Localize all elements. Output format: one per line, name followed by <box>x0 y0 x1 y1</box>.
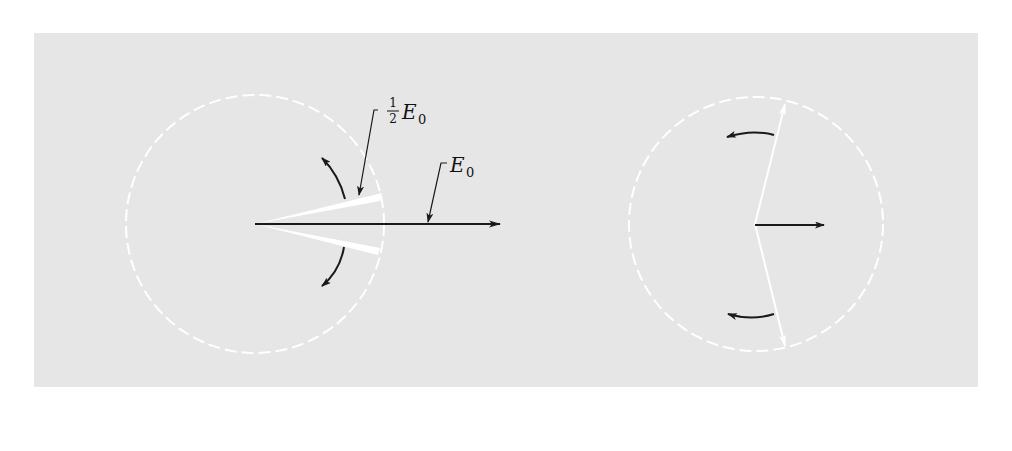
half-symbol: E <box>401 100 417 124</box>
left-lower-phasor <box>255 224 380 255</box>
left-rotation-arrow-down <box>322 247 344 286</box>
right-lower-phasor <box>755 224 785 346</box>
phasor-diagram: 1 2 E 0 E 0 <box>0 0 1012 451</box>
left-upper-phasor <box>255 193 382 224</box>
half-amplitude-label: 1 2 E 0 <box>387 96 426 127</box>
resultant-label: E 0 <box>449 153 474 180</box>
right-rotation-arrow-lower <box>728 314 774 318</box>
right-rotation-arrow-upper <box>727 132 774 137</box>
fraction-denominator: 2 <box>389 112 397 126</box>
resultant-symbol: E <box>449 153 465 177</box>
resultant-leader <box>428 163 447 222</box>
figure-page: 1 2 E 0 E 0 <box>0 0 1012 451</box>
right-upper-phasor <box>755 104 785 224</box>
half-subscript: 0 <box>418 112 426 127</box>
left-phasor-group: 1 2 E 0 E 0 <box>126 95 500 353</box>
right-phasor-group <box>629 97 883 351</box>
fraction-numerator: 1 <box>389 96 397 110</box>
left-rotation-arrow-up <box>322 158 345 199</box>
resultant-subscript: 0 <box>466 165 474 180</box>
